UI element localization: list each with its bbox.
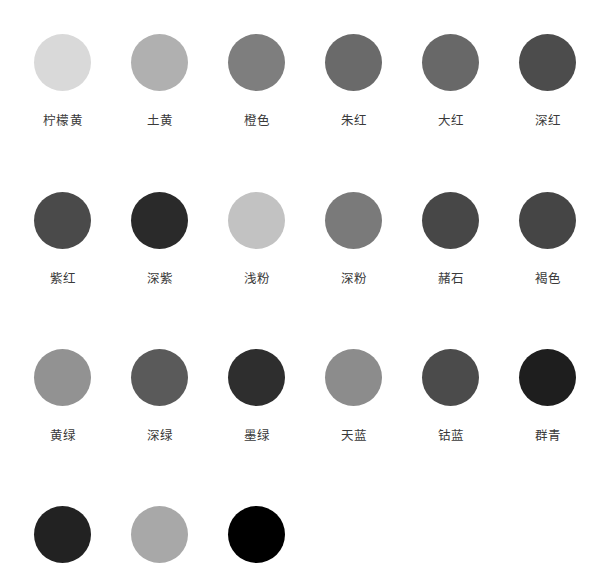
color-label: 钴蓝 bbox=[406, 428, 496, 444]
color-label: 紫红 bbox=[18, 271, 108, 287]
color-swatch: 褐色 bbox=[503, 192, 593, 292]
color-swatch-grid: 柠檬黄土黄橙色朱红大红深红紫红深紫浅粉深粉赭石褐色黄绿深绿墨绿天蓝钴蓝群青 bbox=[0, 0, 607, 564]
color-circle bbox=[131, 506, 188, 563]
color-swatch: 钴蓝 bbox=[406, 349, 496, 449]
color-swatch: 深绿 bbox=[115, 349, 205, 449]
color-circle bbox=[422, 349, 479, 406]
color-swatch: 土黄 bbox=[115, 34, 205, 134]
color-circle bbox=[131, 349, 188, 406]
color-circle bbox=[422, 34, 479, 91]
color-swatch bbox=[212, 506, 302, 564]
color-circle bbox=[34, 34, 91, 91]
color-swatch bbox=[18, 506, 108, 564]
color-label: 深绿 bbox=[115, 428, 205, 444]
color-label: 褐色 bbox=[503, 271, 593, 287]
color-label: 朱红 bbox=[309, 113, 399, 129]
color-swatch: 天蓝 bbox=[309, 349, 399, 449]
color-circle bbox=[34, 192, 91, 249]
color-circle bbox=[34, 349, 91, 406]
color-label: 群青 bbox=[503, 428, 593, 444]
color-label: 黄绿 bbox=[18, 428, 108, 444]
color-circle bbox=[519, 349, 576, 406]
color-circle bbox=[325, 34, 382, 91]
color-label: 土黄 bbox=[115, 113, 205, 129]
color-swatch: 柠檬黄 bbox=[18, 34, 108, 134]
color-swatch: 深红 bbox=[503, 34, 593, 134]
color-circle bbox=[131, 192, 188, 249]
color-circle bbox=[228, 349, 285, 406]
color-swatch: 黄绿 bbox=[18, 349, 108, 449]
color-label: 浅粉 bbox=[212, 271, 302, 287]
color-circle bbox=[131, 34, 188, 91]
color-circle bbox=[325, 349, 382, 406]
color-circle bbox=[422, 192, 479, 249]
color-label: 天蓝 bbox=[309, 428, 399, 444]
color-swatch: 群青 bbox=[503, 349, 593, 449]
color-circle bbox=[228, 192, 285, 249]
color-label: 深红 bbox=[503, 113, 593, 129]
color-circle bbox=[325, 192, 382, 249]
color-circle bbox=[519, 192, 576, 249]
color-swatch: 深粉 bbox=[309, 192, 399, 292]
color-label: 大红 bbox=[406, 113, 496, 129]
color-swatch: 深紫 bbox=[115, 192, 205, 292]
color-label: 深紫 bbox=[115, 271, 205, 287]
color-circle bbox=[519, 34, 576, 91]
color-swatch: 大红 bbox=[406, 34, 496, 134]
color-swatch: 浅粉 bbox=[212, 192, 302, 292]
color-label: 橙色 bbox=[212, 113, 302, 129]
color-label: 深粉 bbox=[309, 271, 399, 287]
color-swatch: 朱红 bbox=[309, 34, 399, 134]
color-swatch: 紫红 bbox=[18, 192, 108, 292]
color-circle bbox=[228, 506, 285, 563]
color-swatch: 赭石 bbox=[406, 192, 496, 292]
color-circle bbox=[228, 34, 285, 91]
color-circle bbox=[34, 506, 91, 563]
color-label: 柠檬黄 bbox=[18, 113, 108, 129]
color-swatch: 橙色 bbox=[212, 34, 302, 134]
color-swatch bbox=[115, 506, 205, 564]
color-swatch: 墨绿 bbox=[212, 349, 302, 449]
color-label: 墨绿 bbox=[212, 428, 302, 444]
color-label: 赭石 bbox=[406, 271, 496, 287]
